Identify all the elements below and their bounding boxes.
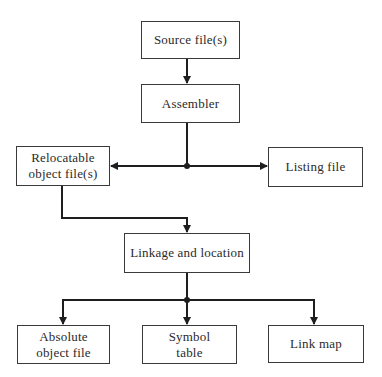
- node-label: Symbol table: [169, 329, 211, 361]
- node-source-files: Source file(s): [141, 21, 240, 59]
- node-label: Source file(s): [154, 32, 227, 48]
- node-listing-file: Listing file: [268, 147, 363, 187]
- node-symbol-table: Symbol table: [142, 325, 237, 364]
- node-absolute-object-file: Absolute object file: [17, 325, 110, 364]
- node-label: Relocatable object file(s): [29, 150, 98, 182]
- arrow-relocatable-to-linkage: [62, 186, 187, 232]
- junction-dot-upper: [184, 163, 190, 169]
- node-assembler: Assembler: [141, 84, 240, 123]
- node-label: Linkage and location: [130, 245, 244, 261]
- arrow-to-linkmap: [187, 300, 314, 324]
- node-label: Listing file: [286, 159, 346, 175]
- node-link-map: Link map: [268, 325, 364, 363]
- flow-diagram: Source file(s) Assembler Relocatable obj…: [0, 0, 382, 377]
- node-label: Assembler: [162, 96, 219, 112]
- node-relocatable-object-files: Relocatable object file(s): [16, 146, 110, 186]
- node-label: Link map: [290, 336, 342, 352]
- junction-dot-lower: [184, 297, 190, 303]
- node-label: Absolute object file: [36, 329, 91, 361]
- arrow-to-absolute: [63, 300, 187, 324]
- node-linkage-and-location: Linkage and location: [124, 233, 250, 273]
